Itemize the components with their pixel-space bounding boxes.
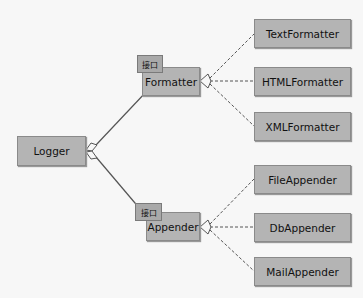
xml-formatter-label: XMLFormatter bbox=[266, 121, 340, 133]
html-formatter-label: HTMLFormatter bbox=[262, 76, 343, 88]
xml-formatter-box[interactable]: XMLFormatter bbox=[254, 112, 351, 141]
file-appender-label: FileAppender bbox=[268, 174, 337, 186]
text-formatter-label: TextFormatter bbox=[266, 28, 339, 40]
logger-label: Logger bbox=[33, 145, 69, 157]
aggregation-diamond-icon bbox=[86, 151, 97, 159]
aggregation-diamond-icon bbox=[86, 143, 97, 151]
formatter-interface-tag: 接口 bbox=[137, 55, 163, 73]
mail-appender-label: MailAppender bbox=[266, 266, 338, 278]
mail-appender-box[interactable]: MailAppender bbox=[254, 257, 351, 286]
db-appender-label: DbAppender bbox=[270, 222, 336, 234]
appender-interface-tag: 接口 bbox=[135, 203, 162, 221]
realization-arrow-icon bbox=[200, 220, 211, 234]
file-appender-box[interactable]: FileAppender bbox=[254, 165, 351, 194]
appender-label: Appender bbox=[147, 221, 198, 233]
realization-arrow-icon bbox=[200, 74, 211, 88]
db-appender-box[interactable]: DbAppender bbox=[254, 213, 351, 242]
formatter-label: Formatter bbox=[145, 76, 197, 88]
logger-class-box[interactable]: Logger bbox=[17, 136, 86, 166]
html-formatter-box[interactable]: HTMLFormatter bbox=[254, 67, 351, 96]
text-formatter-box[interactable]: TextFormatter bbox=[254, 19, 351, 48]
